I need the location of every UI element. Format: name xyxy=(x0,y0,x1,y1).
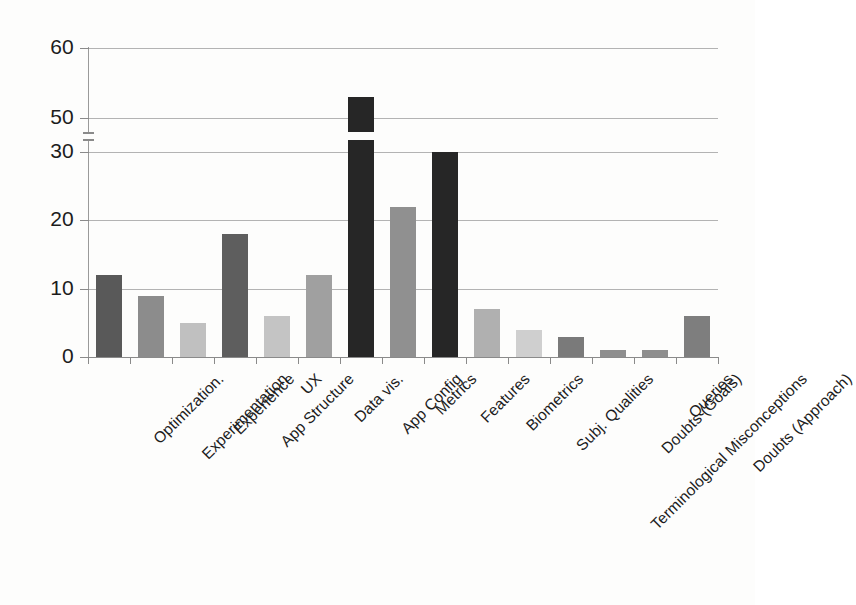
x-label-10: Biometrics xyxy=(522,370,587,435)
x-label-6: Data vis. xyxy=(351,370,407,426)
